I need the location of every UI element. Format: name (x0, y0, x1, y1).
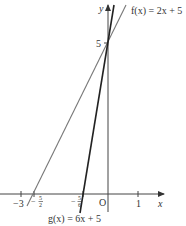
label-f: f(x) = 2x + 5 (131, 5, 182, 17)
svg-text:6: 6 (78, 202, 81, 208)
svg-text:5: 5 (39, 195, 42, 201)
svg-text:5: 5 (78, 195, 81, 201)
svg-text:−: − (31, 197, 36, 206)
line-f (27, 5, 126, 206)
label-g: g(x) = 6x + 5 (48, 213, 101, 225)
line-g (80, 5, 114, 213)
graph-figure: y x O 5 −3 1 − 5 2 − 5 6 f(x) = 2x + 5 g… (0, 0, 186, 226)
x-tick-label-minus-5-2: − 5 2 (31, 195, 43, 208)
x-tick-label-minus-5-6: − 5 6 (71, 195, 82, 208)
y-axis-label: y (98, 3, 104, 14)
x-tick-label-1: 1 (136, 198, 141, 209)
svg-text:2: 2 (39, 202, 42, 208)
svg-text:−: − (71, 197, 76, 206)
y-tick-label-5: 5 (96, 38, 101, 49)
origin-label: O (99, 197, 106, 208)
x-axis-label: x (157, 198, 163, 209)
x-tick-label-minus-3: −3 (13, 198, 24, 209)
